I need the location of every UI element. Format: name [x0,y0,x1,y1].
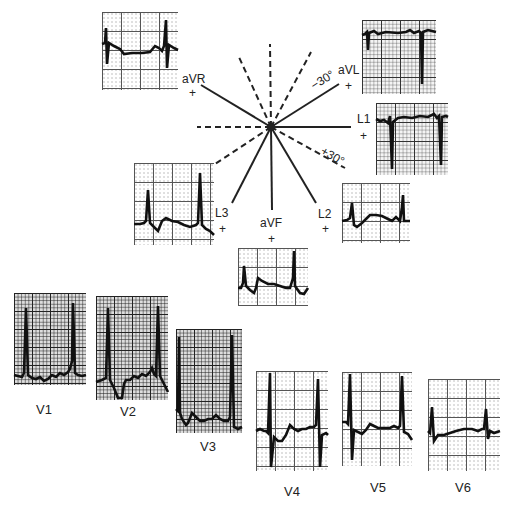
lead-sign-l1: + [360,130,367,142]
lead-label-l3: L3 [215,207,228,219]
lead-sign-l3: + [219,223,226,235]
ecg-strip-v3 [176,329,242,433]
axis-l3 [232,127,271,203]
ecg-strip-avf [238,248,308,306]
lead-label-v3: V3 [200,440,216,453]
ecg-strip-l1 [376,103,448,175]
lead-label-l1: L1 [357,113,370,125]
axis-center [267,123,275,131]
axis-avf [271,127,272,210]
lead-label-v2: V2 [120,405,136,418]
ecg-strip-v2 [96,296,168,400]
lead-sign-avr: + [189,87,196,99]
axis-avl-negative [212,127,271,166]
ecg-strip-l3 [134,163,214,245]
lead-label-v5: V5 [370,481,386,494]
axis-avl [271,84,339,127]
lead-label-v1: V1 [36,403,52,416]
ecg-strip-v5 [342,372,412,466]
lead-label-v4: V4 [284,485,300,498]
lead-label-avl: aVL [338,64,359,76]
axis-l3-negative [271,52,311,127]
lead-label-l2: L2 [318,208,331,220]
lead-sign-avl: + [345,80,352,92]
ecg-strip-v4 [256,371,328,471]
axis-avf-negative [270,44,271,127]
ecg-strip-v6 [428,379,500,471]
lead-sign-avf: + [268,233,275,245]
lead-label-avf: aVF [260,217,282,229]
lead-label-avr: aVR [182,73,205,85]
ecg-strip-l2 [342,183,410,243]
lead-sign-l2: + [322,223,329,235]
lead-label-v6: V6 [455,481,471,494]
ecg-strip-avr [102,12,178,90]
ecg-strip-avl [362,20,436,94]
ecg-strip-v1 [14,293,86,385]
